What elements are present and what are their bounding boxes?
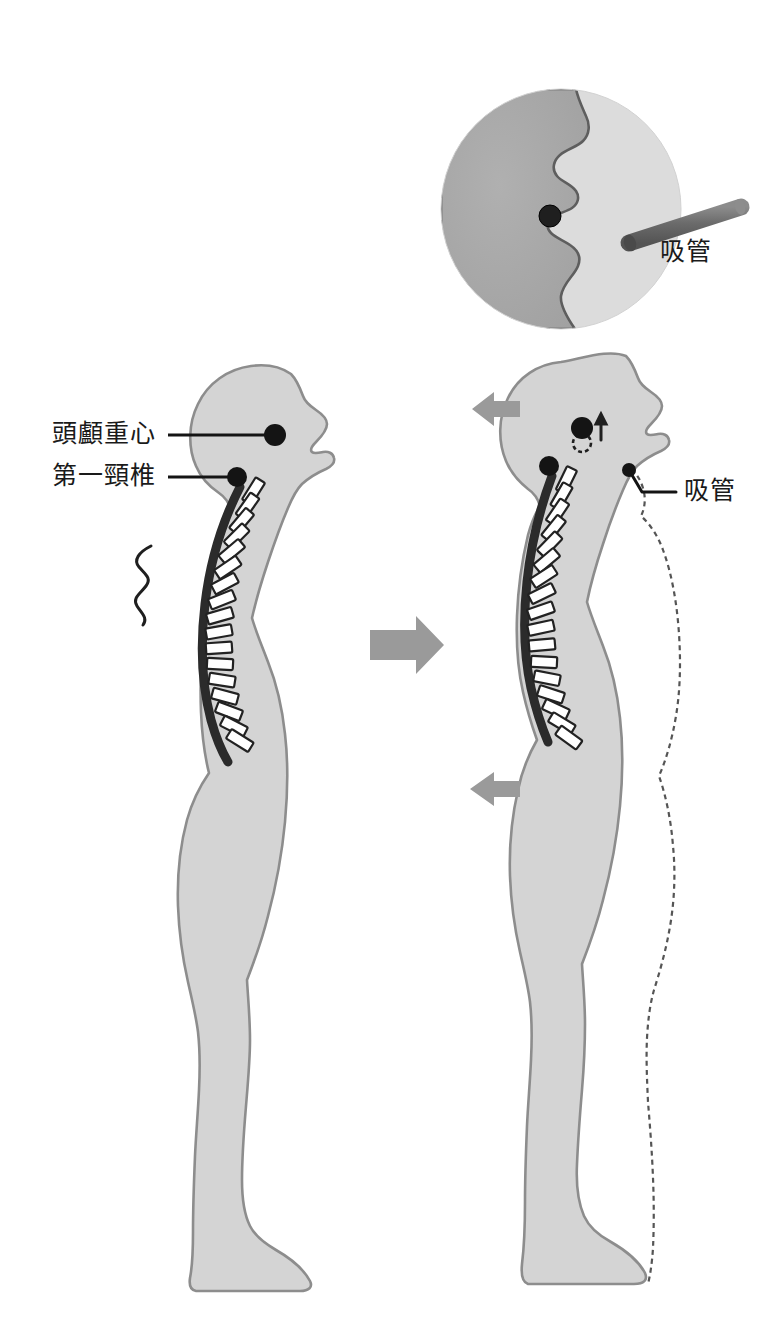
trunk-retraction-arrow [470, 772, 520, 806]
transition-arrow [370, 616, 444, 674]
left-figure-group [135, 365, 334, 1291]
pain-squiggle-icon [135, 546, 151, 625]
label-head-cog: 頭顱重心 [52, 421, 156, 446]
illustration-layer [0, 0, 780, 1341]
right-vertebra [531, 656, 558, 668]
magnifier-inset [441, 89, 747, 329]
right-figure-group [470, 353, 680, 1284]
right-first-cervical-dot [539, 456, 559, 476]
straw-leader-line [629, 470, 676, 492]
left-vertebra [206, 642, 233, 655]
right-head-cog-dot [571, 417, 593, 439]
label-straw-figure: 吸管 [684, 478, 736, 503]
label-first-cervical: 第一頸椎 [52, 463, 156, 488]
diagram-canvas: 頭顱重心 第一頸椎 吸管 吸管 [0, 0, 780, 1341]
transition-arrow-shape [370, 616, 444, 674]
left-vertebra [207, 658, 234, 670]
right-vertebra [529, 638, 556, 651]
label-straw-inset: 吸管 [660, 239, 712, 264]
mouth-point-dot [539, 205, 561, 227]
